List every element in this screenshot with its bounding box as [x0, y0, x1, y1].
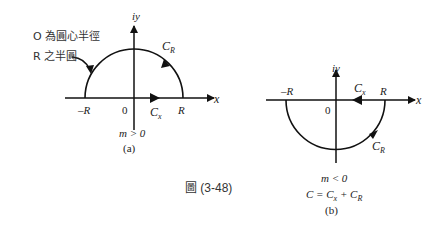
annotation-line-1: O 為圓心半徑: [33, 29, 100, 43]
origin-label: 0: [122, 104, 128, 116]
cx-label: Cx: [354, 81, 366, 97]
y-axis-label: iy: [332, 62, 340, 74]
x-axis-label: x: [415, 93, 422, 107]
cr-label: CR: [162, 39, 175, 55]
r-label: R: [177, 104, 185, 116]
cx-arrow: [150, 93, 160, 103]
cx-label: Cx: [150, 105, 162, 121]
minus-r-label: –R: [77, 104, 91, 116]
contour-diagrams: iy x 0 –R R Cx CR O 為圓心半徑 R 之半圓 m > 0 (a…: [0, 0, 433, 225]
equation-label: C = Cx + CR: [306, 188, 362, 203]
x-axis-label: x: [213, 92, 220, 106]
figure-caption: 圖 (3-48): [185, 181, 232, 195]
r-label: R: [379, 85, 387, 97]
panel-a: iy x 0 –R R Cx CR O 為圓心半徑 R 之半圓 m > 0 (a…: [33, 10, 220, 155]
minus-r-label: –R: [280, 85, 294, 97]
cx-arrow: [352, 95, 362, 105]
condition-label: m < 0: [321, 172, 348, 184]
cr-label: CR: [372, 139, 385, 155]
annotation-line-2: R 之半圓: [33, 49, 77, 63]
panel-label: (b): [325, 204, 338, 217]
panel-b: iy x 0 –R R Cx CR m < 0 C = Cx + CR (b): [266, 62, 422, 217]
condition-label: m > 0: [119, 127, 146, 139]
panel-label: (a): [123, 142, 136, 155]
y-axis-label: iy: [132, 10, 140, 22]
origin-label: 0: [325, 104, 331, 116]
